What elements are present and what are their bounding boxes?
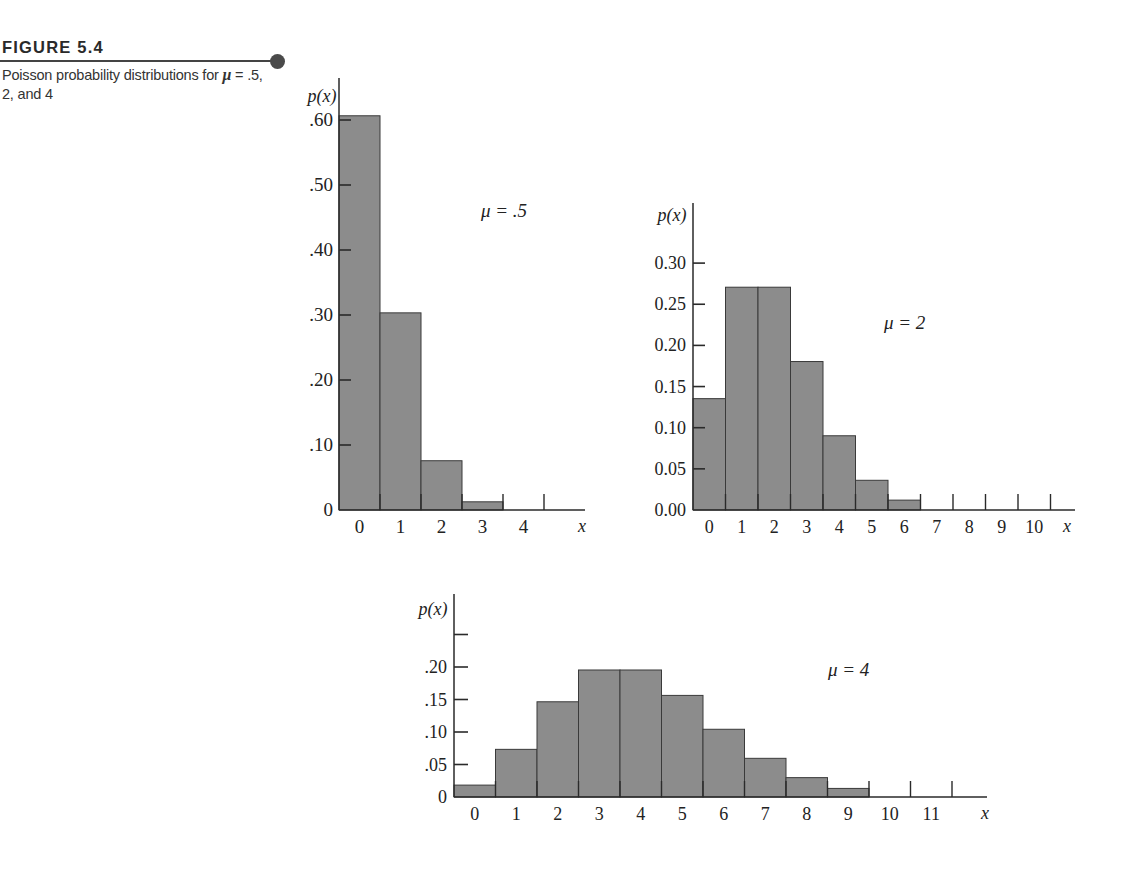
y-tick-label: 0.20 <box>655 335 687 355</box>
bar-x-1 <box>726 287 759 510</box>
x-tick-label: 3 <box>478 516 488 537</box>
y-tick-label: .50 <box>309 174 333 195</box>
y-axis-label: p(x) <box>417 599 448 620</box>
y-axis-label: p(x) <box>656 205 687 226</box>
y-tick-label: .10 <box>425 722 448 742</box>
bar-x-3 <box>579 670 621 797</box>
bar-x-8 <box>786 778 828 797</box>
bar-x-2 <box>421 461 462 510</box>
x-tick-label: 3 <box>802 517 811 537</box>
x-tick-label: 4 <box>835 517 844 537</box>
figure-canvas: .60.50.40.30.20.10001234p(x)xμ = .5 0.30… <box>0 0 1129 873</box>
x-tick-label: 0 <box>470 804 479 824</box>
y-axis-label: p(x) <box>306 86 337 107</box>
x-tick-label: 7 <box>761 804 770 824</box>
y-tick-label: 0.10 <box>655 418 687 438</box>
y-tick-label: .20 <box>425 657 448 677</box>
bar-x-5 <box>856 480 889 510</box>
x-tick-label: 1 <box>512 804 521 824</box>
bar-x-1 <box>496 749 538 797</box>
y-tick-label: .30 <box>309 304 333 325</box>
y-tick-label: 0.15 <box>655 377 687 397</box>
y-tick-label: .40 <box>309 239 333 260</box>
mu-annotation: μ = 2 <box>883 312 926 333</box>
x-tick-label: 2 <box>770 517 779 537</box>
bar-x-7 <box>745 758 787 797</box>
x-axis-label: x <box>577 516 586 536</box>
x-tick-label: 5 <box>867 517 876 537</box>
bar-x-6 <box>888 500 921 510</box>
x-tick-label: 6 <box>719 804 728 824</box>
mu-annotation: μ = .5 <box>480 200 527 221</box>
bar-x-0 <box>454 785 496 797</box>
x-tick-label: 5 <box>678 804 687 824</box>
x-tick-label: 9 <box>997 517 1006 537</box>
x-tick-label: 6 <box>900 517 909 537</box>
x-axis-label: x <box>980 803 989 823</box>
x-tick-label: 0 <box>355 516 365 537</box>
bar-x-2 <box>537 702 579 797</box>
x-tick-label: 4 <box>636 804 645 824</box>
chart-mu-2: 0.300.250.200.150.100.050.00012345678910… <box>655 203 1076 537</box>
x-tick-label: 11 <box>923 804 940 824</box>
bar-x-3 <box>462 502 503 510</box>
x-tick-label: 1 <box>396 516 406 537</box>
x-tick-label: 8 <box>802 804 811 824</box>
x-axis-label: x <box>1062 516 1071 536</box>
y-tick-label: .05 <box>425 755 448 775</box>
chart-mu-4: .20.15.10.05001234567891011p(x)xμ = 4 <box>417 594 989 824</box>
y-tick-label: .10 <box>309 434 333 455</box>
y-tick-label: 0.05 <box>655 459 687 479</box>
x-tick-label: 0 <box>705 517 714 537</box>
bar-x-1 <box>380 313 421 510</box>
x-tick-label: 10 <box>1025 517 1043 537</box>
x-tick-label: 7 <box>932 517 941 537</box>
x-tick-label: 2 <box>437 516 447 537</box>
bar-x-9 <box>828 788 870 797</box>
x-tick-label: 3 <box>595 804 604 824</box>
y-tick-label: .60 <box>309 109 333 130</box>
x-tick-label: 2 <box>553 804 562 824</box>
bar-x-5 <box>662 695 704 797</box>
chart-mu-0.5: .60.50.40.30.20.10001234p(x)xμ = .5 <box>306 78 586 537</box>
x-tick-label: 4 <box>519 516 529 537</box>
bar-x-0 <box>693 399 726 510</box>
bar-x-3 <box>791 362 824 510</box>
y-tick-label: 0.30 <box>655 253 687 273</box>
y-tick-label: 0 <box>438 787 447 807</box>
x-tick-label: 10 <box>881 804 899 824</box>
x-tick-label: 9 <box>844 804 853 824</box>
y-tick-label: 0.25 <box>655 294 687 314</box>
x-tick-label: 1 <box>737 517 746 537</box>
bar-x-6 <box>703 729 745 797</box>
y-tick-label: 0.00 <box>655 500 687 520</box>
bar-x-4 <box>620 670 662 797</box>
y-tick-label: .20 <box>309 369 333 390</box>
bar-x-4 <box>823 436 856 510</box>
bar-x-0 <box>339 116 380 510</box>
x-tick-label: 8 <box>965 517 974 537</box>
bar-x-2 <box>758 287 791 510</box>
mu-annotation: μ = 4 <box>827 659 870 680</box>
y-tick-label: .15 <box>425 690 448 710</box>
y-tick-label: 0 <box>324 499 334 520</box>
